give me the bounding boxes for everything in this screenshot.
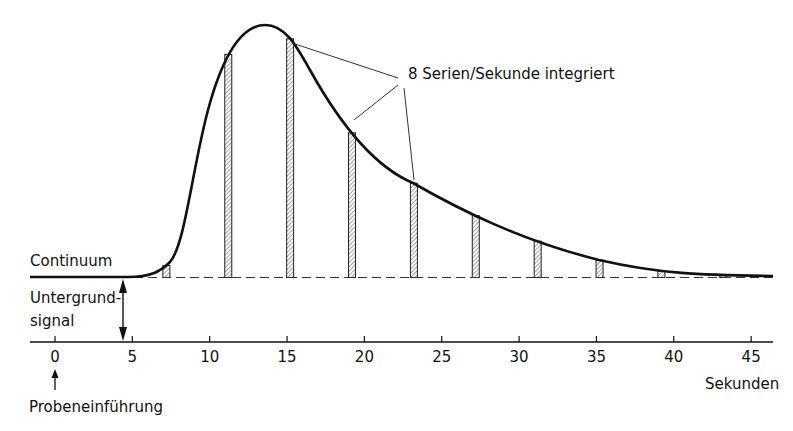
x-ticks: 051015202530354045 — [50, 336, 760, 366]
integration-bar — [349, 133, 356, 278]
background-label-1: Untergrund- — [30, 289, 121, 307]
injection-arrow — [52, 369, 59, 390]
background-label-2: signal — [30, 312, 74, 330]
x-tick-label: 35 — [587, 348, 606, 366]
x-tick-label: 20 — [355, 348, 374, 366]
integration-bar — [410, 183, 417, 277]
integration-bar — [596, 260, 603, 277]
integration-bar — [534, 241, 541, 277]
x-tick-label: 10 — [200, 348, 219, 366]
injection-label: Probeneinführung — [29, 398, 163, 416]
continuum-label: Continuum — [30, 252, 112, 270]
annotation-label: 8 Serien/Sekunde integriert — [408, 65, 615, 83]
x-tick-label: 30 — [510, 348, 529, 366]
x-tick-label: 5 — [128, 348, 138, 366]
integration-bar — [225, 54, 232, 277]
integration-bar — [287, 39, 294, 278]
x-tick-label: 0 — [50, 348, 60, 366]
x-unit-label: Sekunden — [705, 375, 779, 393]
x-tick-label: 15 — [278, 348, 297, 366]
x-tick-label: 45 — [742, 348, 761, 366]
chart: 8 Serien/Sekunde integriert 051015202530… — [0, 0, 793, 431]
x-tick-label: 25 — [432, 348, 451, 366]
integration-bar — [472, 216, 479, 278]
x-tick-label: 40 — [664, 348, 683, 366]
